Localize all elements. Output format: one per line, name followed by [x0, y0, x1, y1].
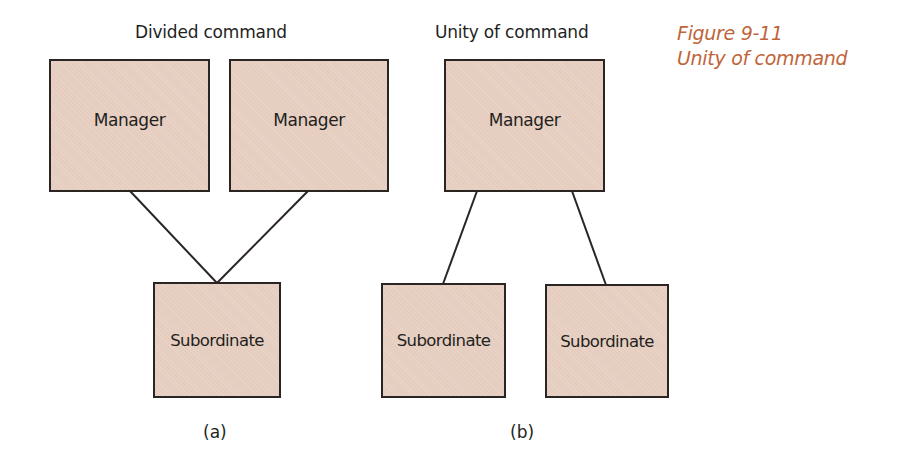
- manager-label: Manager: [94, 110, 166, 130]
- subordinate-box-a: Subordinate: [153, 282, 281, 398]
- panel-b-label: (b): [510, 422, 534, 442]
- panel-a-heading: Divided command: [135, 22, 287, 42]
- subordinate-box-b1: Subordinate: [381, 283, 506, 398]
- subordinate-label: Subordinate: [560, 332, 654, 351]
- subordinate-label: Subordinate: [397, 331, 491, 350]
- manager-label: Manager: [489, 110, 561, 130]
- manager-box-a2: Manager: [229, 59, 389, 192]
- figure-title: Unity of command: [677, 46, 847, 71]
- panel-a-label: (a): [203, 422, 227, 442]
- manager-box-a1: Manager: [49, 59, 210, 192]
- subordinate-box-b2: Subordinate: [545, 284, 669, 398]
- subordinate-label: Subordinate: [170, 331, 264, 350]
- manager-label: Manager: [273, 110, 345, 130]
- panel-b-heading: Unity of command: [435, 22, 589, 42]
- figure-caption: Figure 9-11 Unity of command: [677, 21, 847, 71]
- figure-number: Figure 9-11: [677, 21, 847, 46]
- manager-box-b: Manager: [444, 59, 605, 192]
